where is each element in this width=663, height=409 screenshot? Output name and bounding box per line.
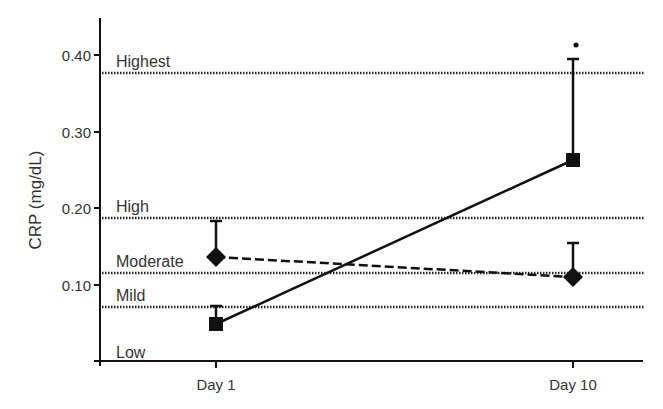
significance-marker (574, 43, 579, 48)
zone-label-low: Low (116, 344, 146, 361)
error-bars (210, 59, 579, 324)
y-tick-label: 0.10 (62, 277, 91, 294)
zone-labels: Highest High Moderate Mild Low (116, 53, 184, 361)
marker-diamond-day1 (206, 247, 226, 267)
zone-label-moderate: Moderate (116, 253, 184, 270)
y-axis-label: CRP (mg/dL) (26, 151, 45, 250)
crp-chart: 0.40 0.30 0.20 0.10 Day 1 Day 10 CRP (mg… (0, 0, 663, 409)
zone-label-highest: Highest (116, 53, 171, 70)
marker-square-day10 (566, 153, 580, 167)
series-square-line (216, 160, 573, 324)
zone-label-high: High (116, 198, 149, 215)
zone-label-mild: Mild (116, 287, 145, 304)
x-ticks: Day 1 Day 10 (196, 361, 596, 393)
y-tick-label: 0.30 (62, 124, 91, 141)
x-tick-label: Day 10 (549, 376, 597, 393)
x-tick-label: Day 1 (196, 376, 235, 393)
y-tick-label: 0.20 (62, 200, 91, 217)
y-ticks: 0.40 0.30 0.20 0.10 (62, 47, 100, 294)
y-tick-label: 0.40 (62, 47, 91, 64)
reference-lines (102, 73, 645, 307)
marker-square-day1 (209, 317, 223, 331)
marker-diamond-day10 (563, 267, 583, 287)
